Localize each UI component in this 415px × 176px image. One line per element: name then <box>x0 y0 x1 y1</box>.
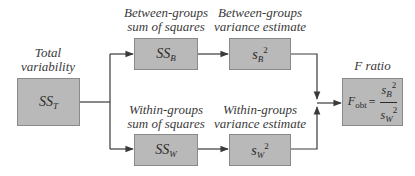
ss-within-box: SSW <box>134 134 198 166</box>
f-ratio-label: F ratio <box>342 59 403 73</box>
equals-sign: = <box>369 95 376 110</box>
ss-between-box: SSB <box>134 38 198 70</box>
variance-within-symbol: sW2 <box>251 141 268 160</box>
within-ss-label: Within-groups sum of squares <box>121 103 211 131</box>
label-line: variance estimate <box>212 20 308 34</box>
variance-within-box: sW2 <box>229 134 291 166</box>
label-line: variance estimate <box>212 117 308 131</box>
label-line: Total <box>8 46 88 60</box>
label-line: F ratio <box>342 59 403 73</box>
f-ratio-box: Fobt = sB2 sW2 <box>342 78 403 126</box>
label-line: sum of squares <box>121 117 211 131</box>
f-fraction: sB2 sW2 <box>380 79 397 126</box>
total-variability-label: Total variability <box>8 46 88 74</box>
variance-between-box: sB2 <box>229 38 291 70</box>
ss-between-symbol: SSB <box>156 46 176 63</box>
variance-between-symbol: sB2 <box>252 45 267 64</box>
f-denominator: sW2 <box>380 103 397 126</box>
between-variance-label: Between-groups variance estimate <box>212 6 308 34</box>
ss-within-symbol: SSW <box>155 142 177 159</box>
ss-total-symbol: SST <box>39 94 58 111</box>
label-line: sum of squares <box>121 20 211 34</box>
ss-total-box: SST <box>17 78 80 126</box>
label-line: Between-groups <box>212 6 308 20</box>
label-line: Within-groups <box>212 103 308 117</box>
f-obt-symbol: Fobt <box>348 94 367 110</box>
label-line: variability <box>8 60 88 74</box>
label-line: Within-groups <box>121 103 211 117</box>
f-numerator: sB2 <box>380 79 397 103</box>
between-ss-label: Between-groups sum of squares <box>121 6 211 34</box>
within-variance-label: Within-groups variance estimate <box>212 103 308 131</box>
label-line: Between-groups <box>121 6 211 20</box>
